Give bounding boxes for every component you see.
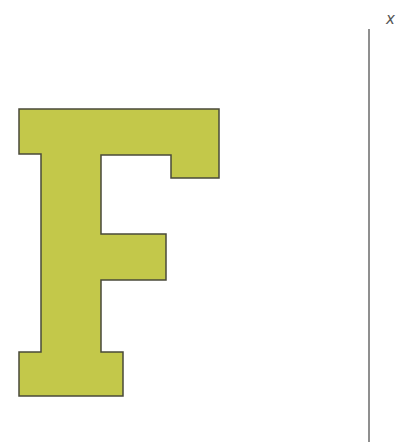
axis-label: x: [386, 10, 395, 28]
figure-canvas: x: [0, 0, 406, 443]
letter-f-shape: [19, 109, 219, 396]
figure-svg: [0, 0, 406, 443]
